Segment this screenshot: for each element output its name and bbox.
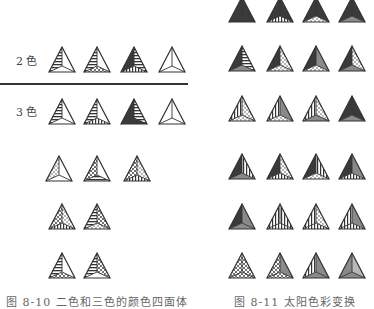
tetrahedron-icon bbox=[83, 252, 111, 279]
tetrahedron-icon bbox=[338, 153, 366, 180]
tetrahedron-icon bbox=[338, 0, 366, 23]
caption-right: 图 8-11 太阳色彩变换 bbox=[234, 293, 356, 309]
tetrahedron-icon bbox=[266, 0, 294, 23]
tetrahedron-icon bbox=[266, 203, 294, 230]
tetrahedron-icon bbox=[228, 203, 256, 230]
tetrahedron-icon bbox=[83, 155, 111, 182]
row-label-3-color: 3 色 bbox=[16, 103, 38, 119]
tetrahedron-icon bbox=[158, 46, 186, 73]
tetrahedron-icon bbox=[83, 46, 111, 73]
tetrahedron-icon bbox=[266, 95, 294, 122]
tetrahedron-icon bbox=[48, 46, 76, 73]
tetrahedron-icon bbox=[228, 95, 256, 122]
tetrahedron-icon bbox=[338, 95, 366, 122]
tetrahedron-icon bbox=[158, 98, 186, 125]
tetrahedron-icon bbox=[302, 153, 330, 180]
tetrahedron-icon bbox=[120, 46, 148, 73]
caption-left: 图 8-10 二色和三色的颜色四面体 bbox=[6, 293, 188, 309]
tetrahedron-icon bbox=[302, 203, 330, 230]
divider-line bbox=[0, 83, 188, 85]
tetrahedron-icon bbox=[338, 45, 366, 72]
tetrahedron-icon bbox=[48, 98, 76, 125]
tetrahedron-icon bbox=[228, 252, 256, 279]
tetrahedron-icon bbox=[45, 155, 73, 182]
tetrahedron-icon bbox=[83, 98, 111, 125]
tetrahedron-icon bbox=[120, 98, 148, 125]
tetrahedron-icon bbox=[266, 252, 294, 279]
tetrahedron-icon bbox=[48, 252, 76, 279]
row-label-2-color: 2 色 bbox=[16, 52, 38, 68]
tetrahedron-icon bbox=[266, 45, 294, 72]
tetrahedron-icon bbox=[228, 153, 256, 180]
tetrahedron-icon bbox=[228, 45, 256, 72]
tetrahedron-icon bbox=[338, 252, 366, 279]
tetrahedron-icon bbox=[123, 155, 151, 182]
tetrahedron-icon bbox=[266, 153, 294, 180]
tetrahedron-icon bbox=[83, 203, 111, 230]
tetrahedron-icon bbox=[228, 0, 256, 23]
tetrahedron-icon bbox=[302, 95, 330, 122]
tetrahedron-icon bbox=[302, 0, 330, 23]
tetrahedron-icon bbox=[338, 203, 366, 230]
tetrahedron-icon bbox=[302, 252, 330, 279]
tetrahedron-icon bbox=[48, 203, 76, 230]
tetrahedron-icon bbox=[302, 45, 330, 72]
